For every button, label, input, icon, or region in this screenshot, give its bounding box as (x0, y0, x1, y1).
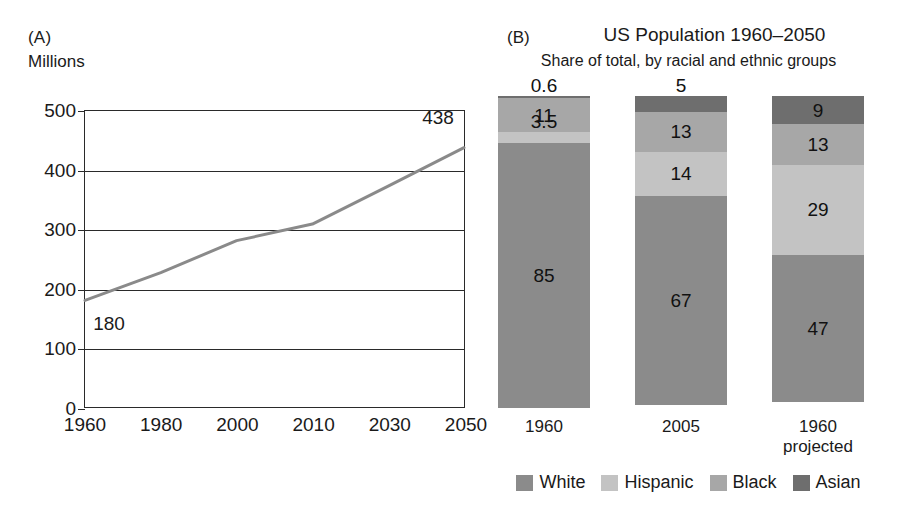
chart-title: US Population 1960–2050 (540, 24, 889, 46)
bars-plot-area: 0.6113.58519605131467200591329471960proj… (480, 96, 897, 408)
bar-segment-black[interactable]: 13 (772, 124, 864, 165)
x-tick-label: 2000 (216, 414, 258, 436)
y-tick-mark (78, 171, 85, 172)
bar-column[interactable]: 51314672005 (635, 96, 727, 408)
line-plot-area: 0100200300400500 19601980200020102030205… (84, 110, 465, 408)
panel-b-label: (B) (507, 28, 530, 48)
bar-segment-value: 3.5 (531, 112, 557, 131)
bar-segment-white[interactable]: 47 (772, 255, 864, 402)
y-tick-mark (78, 230, 85, 231)
bar-category-label-line: 1960 (772, 417, 864, 437)
y-tick-mark (78, 409, 85, 410)
legend-swatch-white (516, 475, 533, 491)
legend-swatch-black (710, 475, 727, 491)
bar-stack: 5131467 (635, 96, 727, 408)
bar-segment-value: 85 (533, 266, 554, 285)
y-axis-title: Millions (28, 52, 85, 72)
y-tick-mark (78, 349, 85, 350)
figure-two-panel: (A) Millions 0100200300400500 1960198020… (0, 0, 897, 514)
legend-label: Asian (816, 472, 861, 493)
x-tick-label: 2010 (292, 414, 334, 436)
line-annotation-180: 180 (93, 313, 125, 335)
bar-category-label: 1960projected (772, 417, 864, 457)
panel-b-stacked-bar-chart: (B) US Population 1960–2050 Share of tot… (480, 0, 897, 514)
bar-category-label-line: projected (772, 437, 864, 457)
y-tick-mark (78, 111, 85, 112)
legend-label: White (539, 472, 585, 493)
population-line-series (85, 111, 464, 407)
bar-stack: 9132947 (772, 96, 864, 408)
legend-label: Black (733, 472, 777, 493)
bar-segment-value: 14 (670, 164, 691, 183)
bar-segment-value: 5 (676, 76, 687, 95)
bar-segment-value: 29 (807, 200, 828, 219)
legend: WhiteHispanicBlackAsian (480, 472, 897, 493)
bar-segment-value: 13 (670, 122, 691, 141)
legend-label: Hispanic (624, 472, 693, 493)
bar-segment-hispanic[interactable]: 14 (635, 152, 727, 196)
chart-subtitle: Share of total, by racial and ethnic gro… (484, 52, 893, 70)
bar-segment-value: 9 (813, 101, 824, 120)
bar-segment-value: 13 (807, 135, 828, 154)
legend-item-hispanic[interactable]: Hispanic (601, 472, 693, 493)
bar-segment-white[interactable]: 67 (635, 196, 727, 405)
legend-swatch-asian (793, 475, 810, 491)
panel-a-line-chart: (A) Millions 0100200300400500 1960198020… (0, 0, 480, 514)
bar-segment-black[interactable]: 13 (635, 112, 727, 153)
bar-segment-value: 67 (670, 291, 691, 310)
legend-swatch-hispanic (601, 475, 618, 491)
legend-item-asian[interactable]: Asian (793, 472, 861, 493)
bar-column[interactable]: 91329471960projected (772, 96, 864, 408)
bar-segment-hispanic[interactable]: 3.5 (498, 132, 590, 143)
legend-item-white[interactable]: White (516, 472, 585, 493)
x-tick-label: 1980 (140, 414, 182, 436)
bar-segment-value: 0.6 (531, 76, 557, 95)
x-tick-label: 2030 (369, 414, 411, 436)
y-tick-mark (78, 290, 85, 291)
bar-segment-asian[interactable]: 5 (635, 96, 727, 112)
bar-column[interactable]: 0.6113.5851960 (498, 96, 590, 408)
x-tick-label: 1960 (64, 414, 106, 436)
bar-category-label: 1960 (498, 417, 590, 437)
legend-item-black[interactable]: Black (710, 472, 777, 493)
bar-segment-white[interactable]: 85 (498, 143, 590, 408)
bar-category-label-line: 2005 (635, 417, 727, 437)
bar-segment-asian[interactable]: 9 (772, 96, 864, 124)
bar-segment-hispanic[interactable]: 29 (772, 165, 864, 255)
bar-category-label-line: 1960 (498, 417, 590, 437)
line-annotation-438: 438 (422, 107, 454, 129)
panel-a-label: (A) (28, 28, 51, 48)
bar-category-label: 2005 (635, 417, 727, 437)
bar-segment-value: 47 (807, 319, 828, 338)
bar-stack: 0.6113.585 (498, 96, 590, 408)
